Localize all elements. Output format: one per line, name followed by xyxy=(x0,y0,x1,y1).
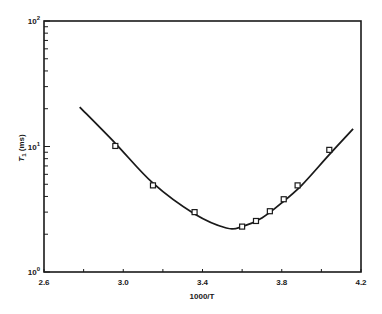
fit-curve xyxy=(80,107,353,229)
t1-vs-inverse-temperature-chart: 100101102 2.63.03.43.84.2 1000/T T1 (ms) xyxy=(0,0,382,314)
y-tick-label: 100 xyxy=(28,266,41,277)
y-axis-title: T1 (ms) xyxy=(17,134,27,162)
data-point-marker xyxy=(150,183,155,188)
plot-border xyxy=(44,21,361,272)
data-point-marker xyxy=(267,209,272,214)
y-axis-title-units: (ms) xyxy=(17,134,26,153)
y-tick-label: 101 xyxy=(28,141,41,152)
data-point-marker xyxy=(240,224,245,229)
x-tick-label: 3.8 xyxy=(276,278,288,287)
y-tick-label: 102 xyxy=(28,15,41,26)
data-point-marker xyxy=(253,218,258,223)
x-tick-label: 3.0 xyxy=(118,278,130,287)
data-point-marker xyxy=(192,210,197,215)
x-tick-label: 2.6 xyxy=(38,278,50,287)
data-point-marker xyxy=(281,197,286,202)
data-points xyxy=(113,143,332,229)
plot-frame xyxy=(44,21,361,272)
data-point-marker xyxy=(327,147,332,152)
y-axis-ticks: 100101102 xyxy=(28,15,50,277)
x-tick-label: 3.4 xyxy=(197,278,209,287)
x-tick-label: 4.2 xyxy=(355,278,367,287)
data-point-marker xyxy=(295,183,300,188)
data-point-marker xyxy=(113,143,118,148)
x-axis-title: 1000/T xyxy=(190,292,215,301)
